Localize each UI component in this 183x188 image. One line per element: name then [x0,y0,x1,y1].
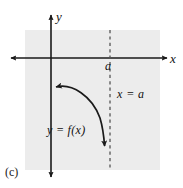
x-axis-label: x [170,52,176,65]
vertical-asymptote-label: x = a [117,88,144,100]
panel-label: (c) [5,166,18,178]
a-point-label: a [105,60,111,72]
function-equation-label: y = f(x) [47,124,85,136]
y-axis-label: y [56,10,62,23]
figure-container: y x a x = a y = f(x) (c) [0,0,183,188]
coordinate-diagram [0,0,183,188]
